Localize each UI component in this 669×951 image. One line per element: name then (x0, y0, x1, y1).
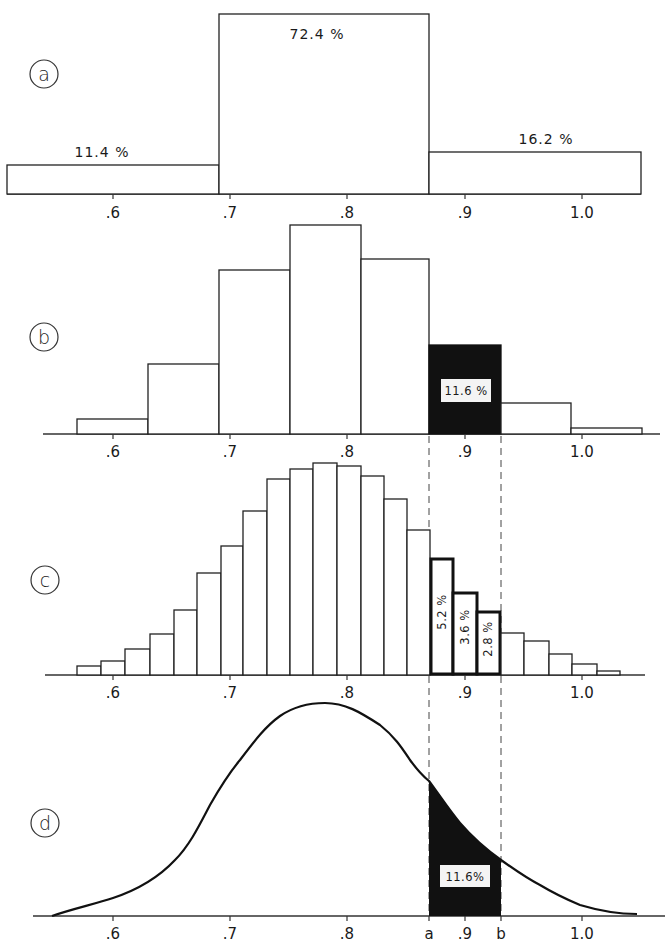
panel-c-bars (77, 463, 620, 675)
panel-d-letter: d (39, 812, 51, 834)
svg-text:.6: .6 (106, 925, 120, 943)
panel-a-tick-0.8: .8 (340, 204, 354, 222)
svg-text:1.0: 1.0 (570, 925, 594, 943)
svg-text:.6: .6 (106, 684, 120, 702)
panel-b-ticks: .6 .7 .8 .9 1.0 (106, 434, 594, 461)
panel-b: b 11.6 % .6 .7 .8 .9 1.0 (30, 225, 660, 461)
panel-c-ticks: .6 .7 .8 .9 1.0 (106, 675, 594, 702)
panel-d-shaded-area (429, 781, 501, 916)
panel-c-letter: c (40, 569, 50, 591)
svg-text:1.0: 1.0 (570, 684, 594, 702)
panel-a-letter: a (38, 63, 50, 85)
svg-text:.9: .9 (458, 684, 472, 702)
panel-a-bar-high (429, 152, 641, 194)
panel-a-ticks: .6 .7 .8 .9 1.0 (106, 194, 594, 222)
panel-d-ticks: .6 .7 .8 a .9 b 1.0 (106, 916, 594, 943)
svg-text:.8: .8 (340, 684, 354, 702)
svg-text:.7: .7 (223, 684, 237, 702)
panel-c-label-3: 2.8 % (481, 621, 495, 656)
panel-c-label-2: 3.6 % (458, 609, 472, 644)
panel-d: d 11.6% .6 .7 .8 a .9 b 1.0 (31, 703, 665, 943)
svg-text:.9: .9 (458, 443, 472, 461)
panel-a-label-mid: 72.4 % (290, 26, 345, 42)
panel-d-highlight-label: 11.6% (445, 870, 484, 884)
svg-text:.7: .7 (223, 925, 237, 943)
panel-a-label-high: 16.2 % (519, 131, 574, 147)
panel-c: c 5.2 % 3.6 % (31, 463, 645, 702)
panel-a-bar-low (7, 165, 219, 194)
svg-text:.8: .8 (340, 925, 354, 943)
panel-c-label-1: 5.2 % (435, 594, 449, 629)
panel-a-tick-0.7: .7 (223, 204, 237, 222)
svg-text:1.0: 1.0 (570, 443, 594, 461)
panel-d-density-curve (52, 703, 637, 916)
panel-a-tick-0.9: .9 (458, 204, 472, 222)
svg-text:.7: .7 (223, 443, 237, 461)
panel-b-letter: b (38, 326, 50, 348)
panel-d-interval-b-label: b (496, 925, 506, 943)
panel-a-label-low: 11.4 % (75, 144, 130, 160)
svg-text:.6: .6 (106, 443, 120, 461)
histogram-to-density-figure: a 11.4 % 72.4 % 16.2 % .6 .7 .8 .9 1.0 b (0, 0, 669, 951)
panel-a-tick-1.0: 1.0 (570, 204, 594, 222)
panel-d-interval-a-label: a (424, 925, 433, 943)
panel-a-tick-0.6: .6 (106, 204, 120, 222)
svg-text:.9: .9 (458, 925, 472, 943)
panel-a: a 11.4 % 72.4 % 16.2 % .6 .7 .8 .9 1.0 (7, 14, 641, 222)
svg-text:.8: .8 (340, 443, 354, 461)
panel-b-highlight-label: 11.6 % (444, 384, 487, 398)
